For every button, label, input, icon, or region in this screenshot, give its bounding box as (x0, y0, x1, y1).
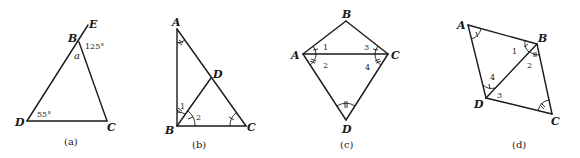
caption-c: (c) (340, 139, 354, 150)
angle-label-1: 1 (323, 43, 328, 52)
angle-tick-2 (188, 117, 193, 119)
vertex-label-D: D (14, 116, 25, 129)
vertex-label-A: A (456, 19, 466, 32)
vertex-label-C: C (391, 49, 400, 62)
segment-BC (537, 44, 552, 114)
geometry-figures: E B D C 125° a 55° (a) A B C D 1 2 (b) (0, 0, 580, 158)
angle-tick-3 (373, 49, 378, 50)
segment-CD (486, 98, 552, 114)
vertex-label-B: B (164, 124, 174, 137)
figure-c: B A C D 1 2 3 4 (c) (290, 8, 400, 150)
figure-d: A B C D 1 2 3 4 (d) (456, 19, 560, 150)
vertex-label-D: D (473, 98, 484, 111)
angle-arc-A (471, 29, 481, 39)
angle-label-1: 1 (180, 102, 185, 111)
angle-label-a: a (74, 50, 80, 61)
angle-label-2: 2 (196, 113, 201, 122)
vertex-label-A: A (290, 49, 300, 62)
vertex-label-E: E (88, 18, 98, 31)
segment-BC (79, 42, 107, 121)
vertex-label-A: A (171, 16, 181, 29)
angle-label-2: 2 (527, 61, 532, 70)
vertex-label-D: D (341, 123, 352, 136)
vertex-label-C: C (551, 115, 560, 128)
vertex-label-D: D (212, 68, 223, 81)
segment-DE (27, 25, 88, 121)
angle-arc-1 (525, 41, 529, 52)
angle-label-3: 3 (497, 91, 502, 100)
angle-label-exterior-B: 125° (85, 42, 104, 51)
angle-arc-D (337, 103, 355, 106)
angle-label-4: 4 (490, 73, 495, 82)
angle-label-2: 2 (323, 61, 328, 70)
caption-a: (a) (64, 136, 78, 147)
vertex-label-C: C (107, 121, 116, 134)
caption-d: (d) (512, 139, 526, 150)
angle-label-D: 55° (37, 110, 51, 119)
vertex-label-B: B (67, 32, 77, 45)
figure-a: E B D C 125° a 55° (a) (14, 18, 116, 147)
angle-arc-2 (530, 52, 539, 55)
vertex-label-B: B (341, 8, 351, 21)
figure-b: A B C D 1 2 (b) (164, 16, 256, 150)
angle-tick-1 (313, 49, 318, 50)
vertex-label-B: B (537, 32, 547, 45)
angle-label-1: 1 (512, 47, 517, 56)
angle-label-3: 3 (364, 43, 369, 52)
vertex-label-C: C (247, 121, 256, 134)
caption-b: (b) (192, 139, 206, 150)
angle-label-4: 4 (365, 63, 370, 72)
